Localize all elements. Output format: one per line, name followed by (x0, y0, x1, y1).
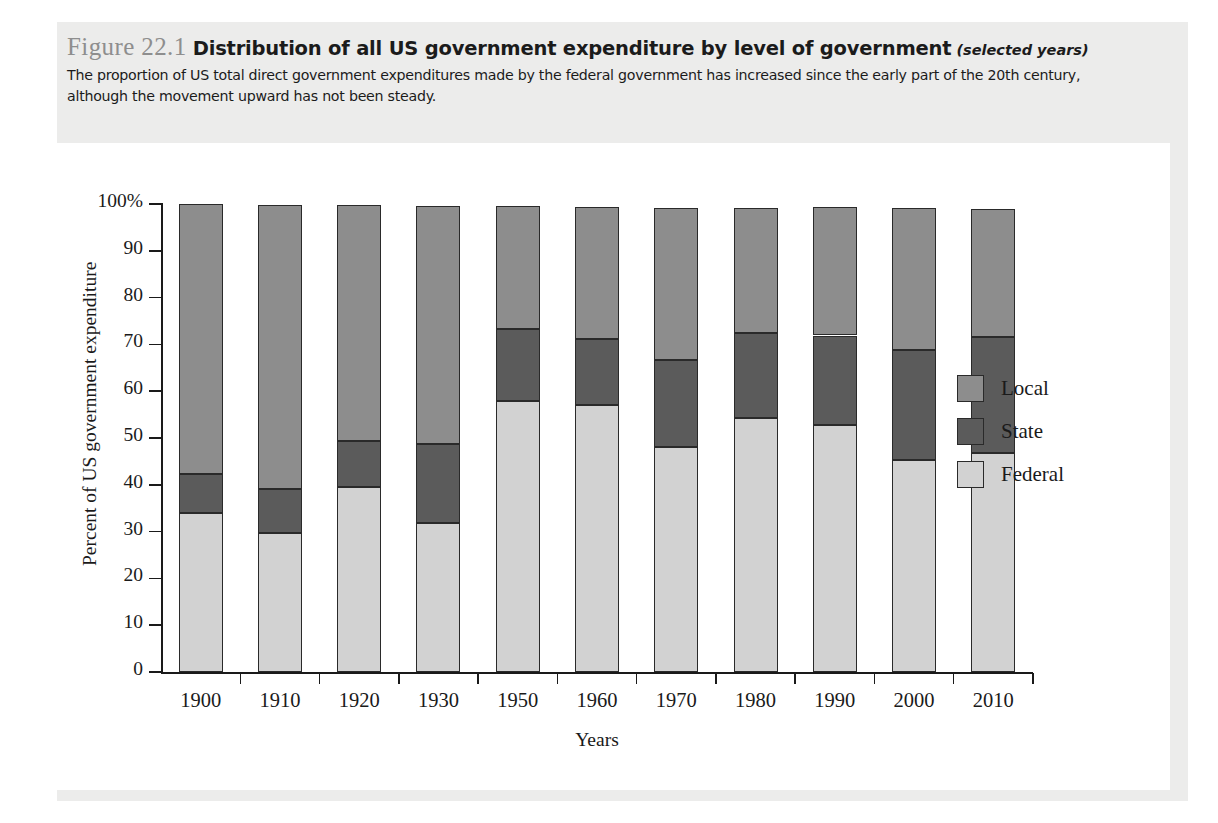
legend-label: State (1001, 419, 1043, 444)
bar-segment-local[interactable] (971, 209, 1015, 337)
legend-swatch-local (957, 375, 984, 402)
bar-segment-local[interactable] (258, 205, 302, 488)
legend-swatch-state (957, 418, 984, 445)
y-axis-tick-label: 30 (67, 518, 143, 540)
x-axis-tick (1032, 673, 1034, 684)
y-axis-tick (149, 437, 162, 439)
y-axis-tick (149, 531, 162, 533)
x-axis-tick (715, 673, 717, 684)
bar-segment-state[interactable] (179, 474, 223, 513)
bar-segment-state[interactable] (575, 339, 619, 405)
bar-segment-state[interactable] (258, 489, 302, 533)
y-axis-tick (149, 390, 162, 392)
y-axis-tick-label: 90 (67, 237, 143, 259)
y-axis-tick-label: 50 (67, 424, 143, 446)
bar-segment-state[interactable] (416, 444, 460, 523)
y-axis-tick-label: 80 (67, 284, 143, 306)
bar-segment-local[interactable] (575, 207, 619, 339)
x-axis-title: Years (161, 729, 1033, 751)
bar-stack[interactable] (575, 143, 619, 672)
bar-segment-federal[interactable] (654, 447, 698, 672)
bar-segment-federal[interactable] (892, 460, 936, 672)
bar-stack[interactable] (179, 143, 223, 672)
bar-segment-local[interactable] (892, 208, 936, 350)
legend-label: Local (1001, 376, 1049, 401)
legend-label: Federal (1001, 462, 1064, 487)
bar-segment-state[interactable] (813, 336, 857, 426)
bar-segment-federal[interactable] (813, 425, 857, 672)
x-axis-tick (953, 673, 955, 684)
bar-segment-federal[interactable] (575, 405, 619, 672)
bar-segment-local[interactable] (813, 207, 857, 335)
x-axis-tick (477, 673, 479, 684)
y-axis-tick-label: 10 (67, 611, 143, 633)
bar-segment-local[interactable] (654, 208, 698, 361)
bar-segment-federal[interactable] (337, 487, 381, 672)
x-axis-tick-label: 2010 (938, 689, 1048, 712)
bar-segment-federal[interactable] (496, 401, 540, 672)
y-axis-tick-label: 100% (67, 190, 143, 212)
figure-number: Figure 22.1 (67, 33, 187, 60)
bar-segment-local[interactable] (179, 204, 223, 474)
y-axis-tick (149, 250, 162, 252)
bar-stack[interactable] (337, 143, 381, 672)
x-axis-tick (794, 673, 796, 684)
bar-segment-state[interactable] (734, 333, 778, 418)
x-axis-tick (398, 673, 400, 684)
bar-stack[interactable] (654, 143, 698, 672)
bar-stack[interactable] (496, 143, 540, 672)
bar-stack[interactable] (892, 143, 936, 672)
figure-caption: The proportion of US total direct govern… (67, 65, 1132, 107)
legend-item-state[interactable]: State (957, 410, 1147, 453)
figure-title-line: Figure 22.1Distribution of all US govern… (67, 34, 1167, 60)
y-axis-tick-label: 40 (67, 471, 143, 493)
bar-segment-state[interactable] (337, 441, 381, 487)
bar-segment-local[interactable] (496, 206, 540, 329)
y-axis-tick (149, 297, 162, 299)
y-axis-tick (149, 624, 162, 626)
x-axis-tick (240, 673, 242, 684)
bar-segment-state[interactable] (654, 360, 698, 447)
chart-legend: LocalStateFederal (957, 367, 1147, 496)
bar-segment-federal[interactable] (258, 533, 302, 672)
bar-stack[interactable] (734, 143, 778, 672)
legend-item-federal[interactable]: Federal (957, 453, 1147, 496)
y-axis-tick (149, 578, 162, 580)
bar-segment-state[interactable] (892, 350, 936, 460)
bar-segment-federal[interactable] (179, 513, 223, 672)
y-axis-tick (149, 484, 162, 486)
y-axis-tick-label: 0 (67, 658, 143, 680)
x-axis-tick (874, 673, 876, 684)
stacked-bar-chart: Percent of US government expenditure 010… (57, 143, 1170, 790)
x-axis-tick (319, 673, 321, 684)
bar-stack[interactable] (258, 143, 302, 672)
bar-segment-federal[interactable] (416, 523, 460, 672)
x-axis-tick (636, 673, 638, 684)
y-axis-tick (149, 344, 162, 346)
x-axis-tick (557, 673, 559, 684)
legend-item-local[interactable]: Local (957, 367, 1147, 410)
bar-segment-local[interactable] (734, 208, 778, 333)
chart-plate: Percent of US government expenditure 010… (57, 143, 1170, 790)
legend-swatch-federal (957, 461, 984, 488)
figure-title: Distribution of all US government expend… (193, 37, 952, 60)
y-axis-tick-label: 70 (67, 330, 143, 352)
y-axis-tick (149, 203, 162, 205)
bar-segment-state[interactable] (496, 329, 540, 401)
x-axis-line (161, 672, 1033, 674)
figure-panel: Figure 22.1Distribution of all US govern… (57, 22, 1188, 801)
bar-segment-local[interactable] (416, 206, 460, 444)
bar-stack[interactable] (813, 143, 857, 672)
y-axis-tick (149, 671, 162, 673)
bar-stack[interactable] (416, 143, 460, 672)
bar-segment-local[interactable] (337, 205, 381, 440)
bar-segment-federal[interactable] (734, 418, 778, 672)
y-axis-tick-label: 20 (67, 564, 143, 586)
figure-header: Figure 22.1Distribution of all US govern… (67, 34, 1167, 107)
figure-title-note: (selected years) (956, 42, 1088, 58)
y-axis-tick-label: 60 (67, 377, 143, 399)
